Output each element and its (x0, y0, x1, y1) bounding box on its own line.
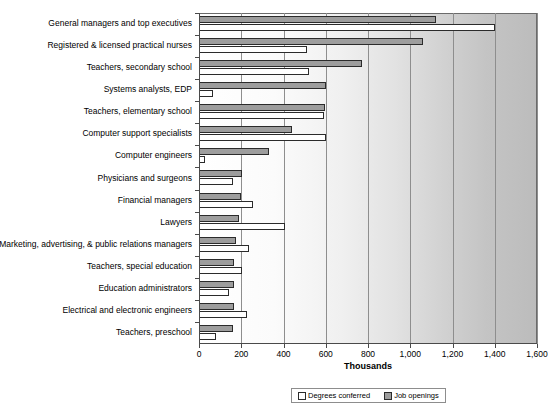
category-tick (195, 79, 199, 80)
category-tick (195, 57, 199, 58)
bar-row (199, 38, 537, 60)
x-tick-label: 600 (306, 349, 346, 359)
x-tick-label: 200 (221, 349, 261, 359)
bar-degrees-conferred (199, 24, 495, 31)
bar-job-openings (199, 215, 239, 222)
bar-row (199, 104, 537, 126)
x-tick-line (368, 344, 369, 348)
bar-job-openings (199, 60, 362, 67)
category-label: Teachers, elementary school (84, 107, 192, 116)
category-tick (195, 101, 199, 102)
category-label: Teachers, preschool (116, 328, 192, 337)
gridline-1600 (537, 13, 538, 344)
category-label: Computer engineers (115, 151, 192, 160)
category-label: Systems analysts, EDP (104, 85, 192, 94)
category-label: Electrical and electronic engineers (63, 306, 192, 315)
x-tick-label: 0 (179, 349, 219, 359)
bar-row (199, 16, 537, 38)
category-label: Computer support specialists (82, 129, 192, 138)
x-axis-ticks: 02004006008001,0001,2001,4001,600 (199, 344, 537, 362)
chart-legend: Degrees conferred Job openings (291, 388, 446, 403)
legend-item-degrees-conferred: Degrees conferred (298, 391, 370, 400)
x-tick-label: 1,400 (475, 349, 515, 359)
bar-degrees-conferred (199, 223, 285, 230)
x-tick-line (410, 344, 411, 348)
category-tick (195, 13, 199, 14)
x-tick-label: 1,000 (390, 349, 430, 359)
white-square-icon (298, 392, 306, 400)
bar-row (199, 237, 537, 259)
bar-chart: General managers and top executivesRegis… (0, 0, 553, 417)
bar-degrees-conferred (199, 68, 309, 75)
bar-job-openings (199, 16, 436, 23)
bar-degrees-conferred (199, 134, 326, 141)
bar-row (199, 259, 537, 281)
category-tick (195, 190, 199, 191)
category-tick (195, 300, 199, 301)
x-axis-title: Thousands (199, 361, 537, 371)
category-label: Lawyers (160, 218, 192, 227)
category-label: Registered & licensed practical nurses (47, 41, 192, 50)
category-label: Teachers, secondary school (87, 63, 192, 72)
bar-degrees-conferred (199, 289, 229, 296)
bar-degrees-conferred (199, 245, 249, 252)
x-tick-line (241, 344, 242, 348)
x-tick-label: 1,200 (433, 349, 473, 359)
x-tick-line (284, 344, 285, 348)
bar-row (199, 281, 537, 303)
bar-job-openings (199, 126, 292, 133)
x-tick-label: 800 (348, 349, 388, 359)
category-label: Marketing, advertising, & public relatio… (0, 240, 192, 249)
bar-row (199, 60, 537, 82)
bar-row (199, 303, 537, 325)
x-tick-line (537, 344, 538, 348)
category-tick (195, 322, 199, 323)
bar-degrees-conferred (199, 112, 324, 119)
bar-rows (199, 13, 537, 344)
bar-job-openings (199, 148, 269, 155)
category-label: General managers and top executives (48, 19, 192, 28)
legend-label-job-openings: Job openings (394, 391, 439, 400)
bar-degrees-conferred (199, 178, 233, 185)
bar-job-openings (199, 104, 325, 111)
category-label: Teachers, special education (87, 262, 192, 271)
bar-job-openings (199, 325, 233, 332)
legend-label-degrees-conferred: Degrees conferred (308, 391, 370, 400)
category-axis: General managers and top executivesRegis… (0, 13, 196, 344)
bar-job-openings (199, 82, 326, 89)
x-tick-line (495, 344, 496, 348)
bar-job-openings (199, 303, 234, 310)
plot-area (199, 13, 537, 344)
category-tick (195, 256, 199, 257)
category-tick (195, 212, 199, 213)
bar-degrees-conferred (199, 46, 307, 53)
category-label: Physicians and surgeons (97, 174, 192, 183)
bar-row (199, 215, 537, 237)
y-axis-line (199, 13, 200, 344)
bar-job-openings (199, 193, 241, 200)
bar-job-openings (199, 38, 423, 45)
category-label: Education administrators (98, 284, 192, 293)
x-tick-line (199, 344, 200, 348)
bar-job-openings (199, 259, 234, 266)
bar-degrees-conferred (199, 90, 213, 97)
category-tick (195, 278, 199, 279)
bar-job-openings (199, 170, 242, 177)
x-tick-label: 1,600 (517, 349, 553, 359)
category-tick (195, 234, 199, 235)
category-tick (195, 145, 199, 146)
legend-item-job-openings: Job openings (384, 391, 439, 400)
bar-job-openings (199, 281, 234, 288)
bar-degrees-conferred (199, 333, 216, 340)
bar-row (199, 82, 537, 104)
category-label: Financial managers (118, 196, 192, 205)
x-tick-label: 400 (264, 349, 304, 359)
bar-row (199, 126, 537, 148)
x-tick-line (453, 344, 454, 348)
bar-degrees-conferred (199, 267, 242, 274)
category-tick (195, 123, 199, 124)
bar-row (199, 148, 537, 170)
x-tick-line (326, 344, 327, 348)
category-tick (195, 35, 199, 36)
bar-degrees-conferred (199, 201, 253, 208)
